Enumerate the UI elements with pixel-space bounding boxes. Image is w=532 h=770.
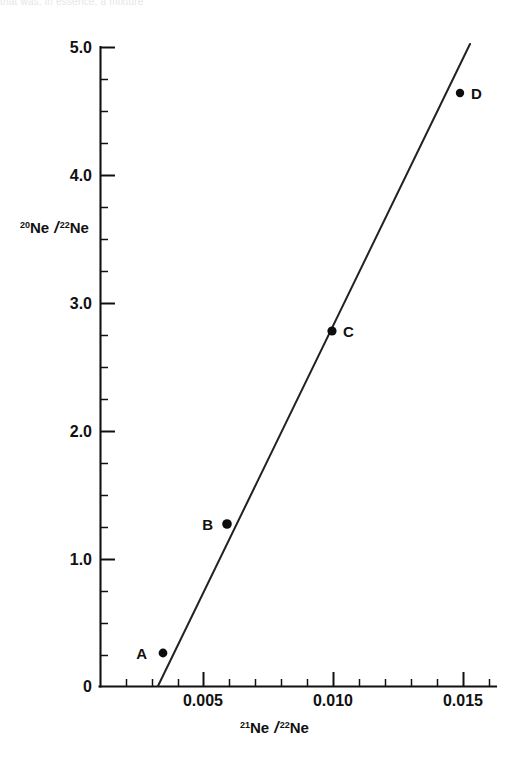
data-point-d[interactable] (456, 89, 464, 97)
data-point-label-d: D (471, 85, 482, 102)
x-axis-major-ticks (204, 672, 464, 686)
x-tick-label-1: 0.010 (313, 692, 353, 709)
y-axis-title-sup-1: 20 (20, 220, 30, 230)
x-axis-title-sup-2: 22 (280, 720, 290, 730)
svg-text:20Ne/22Ne: 20Ne/22Ne (20, 219, 89, 236)
y-tick-label-1: 1.0 (70, 551, 92, 568)
neon-isotope-scatter-plot: 5.0 4.0 3.0 2.0 1.0 0 0.005 0.010 0.015 … (0, 0, 532, 770)
y-tick-label-0: 0 (83, 678, 92, 695)
y-axis-title-sup-2: 22 (60, 220, 70, 230)
figure-container: that was, in essence, a mixture (0, 0, 532, 770)
data-points-group (159, 89, 465, 658)
x-axis-title-base-1: Ne (250, 719, 269, 736)
y-axis-title-base-2: Ne (70, 219, 89, 236)
data-point-label-c: C (343, 323, 354, 340)
x-tick-label-0: 0.005 (183, 692, 223, 709)
x-axis-minor-ticks (127, 679, 490, 686)
y-tick-label-4: 4.0 (70, 167, 92, 184)
data-point-b[interactable] (222, 519, 232, 529)
mixing-line (158, 44, 470, 686)
y-axis-tick-labels: 5.0 4.0 3.0 2.0 1.0 0 (70, 39, 92, 695)
data-point-a[interactable] (159, 649, 168, 658)
y-tick-label-2: 2.0 (70, 423, 92, 440)
y-axis-title: 20Ne/22Ne (20, 219, 89, 236)
x-axis-title: 21Ne/22Ne (240, 719, 309, 736)
x-axis-title-sup-1: 21 (240, 720, 250, 730)
y-tick-label-3: 3.0 (70, 295, 92, 312)
axes-group (100, 47, 497, 687)
x-axis-title-base-2: Ne (290, 719, 309, 736)
y-axis-title-base-1: Ne (30, 219, 49, 236)
x-tick-label-2: 0.015 (443, 692, 483, 709)
x-axis-tick-labels: 0.005 0.010 0.015 (183, 692, 483, 709)
y-tick-label-5: 5.0 (70, 39, 92, 56)
y-axis-minor-ticks (101, 80, 108, 656)
data-point-c[interactable] (327, 326, 336, 335)
svg-text:21Ne/22Ne: 21Ne/22Ne (240, 719, 309, 736)
data-point-label-b: B (202, 516, 213, 533)
y-axis-major-ticks (101, 48, 115, 560)
data-point-label-a: A (136, 645, 147, 662)
